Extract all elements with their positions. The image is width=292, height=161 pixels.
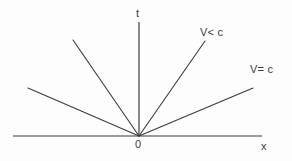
origin-label: 0: [135, 139, 141, 150]
diagram-canvas: [0, 0, 292, 161]
worldline-label-v-less-than-c: V< c: [200, 27, 223, 38]
spacetime-diagram-figure: t x 0 V< c V= c: [0, 0, 292, 161]
worldline-label-v-equals-c: V= c: [250, 64, 273, 75]
t-axis-label: t: [136, 8, 139, 19]
x-axis-label: x: [261, 141, 267, 152]
